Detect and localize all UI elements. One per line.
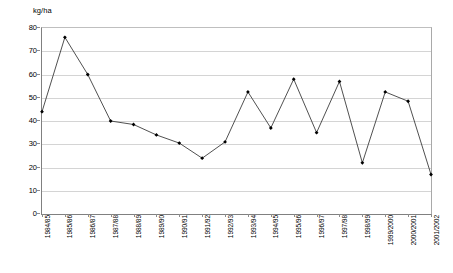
y-axis-tick-label: 40 — [7, 116, 37, 125]
x-axis-tick-labels: 1984/851985/861986/871987/881988/891989/… — [41, 215, 430, 273]
data-point-marker — [155, 133, 159, 137]
y-axis-tick-mark — [37, 97, 40, 98]
series-line — [42, 37, 431, 174]
data-point-marker — [109, 119, 113, 123]
y-axis-unit-label: kg/ha — [33, 6, 52, 15]
x-axis-tick-label: 1997/98 — [341, 215, 348, 238]
y-axis-tick-mark — [37, 167, 40, 168]
y-axis-tick-label: 50 — [7, 92, 37, 101]
y-axis-tick-labels: 80706050403020100 — [0, 27, 37, 213]
y-axis-tick-label: 20 — [7, 162, 37, 171]
data-point-marker — [40, 110, 44, 114]
data-point-marker — [315, 131, 319, 135]
y-axis-tick-label: 80 — [7, 23, 37, 32]
data-point-marker — [292, 77, 296, 81]
data-point-marker — [132, 123, 136, 127]
x-axis-tick-label: 1992/93 — [227, 215, 234, 238]
x-axis-tick-label: 1988/89 — [135, 215, 142, 238]
y-axis-tick-mark — [37, 50, 40, 51]
x-axis-tick-label: 1995/96 — [295, 215, 302, 238]
y-axis-tick-label: 0 — [7, 209, 37, 218]
y-axis-tick-mark — [37, 190, 40, 191]
data-point-marker — [360, 161, 364, 165]
data-point-marker — [338, 80, 342, 84]
x-axis-tick-mark — [431, 214, 432, 217]
x-axis-tick-label: 1990/91 — [181, 215, 188, 238]
y-axis-tick-mark — [37, 143, 40, 144]
x-axis-tick-label: 1998/99 — [364, 215, 371, 238]
x-axis-tick-label: 1987/88 — [112, 215, 119, 238]
y-axis-tick-mark — [37, 120, 40, 121]
y-axis-tick-label: 70 — [7, 46, 37, 55]
x-axis-tick-label: 1991/92 — [204, 215, 211, 238]
x-axis-tick-label: 1993/94 — [250, 215, 257, 238]
x-axis-tick-label: 1989/90 — [158, 215, 165, 238]
x-axis-tick-label: 2001/2002 — [433, 215, 440, 245]
y-axis-tick-label: 60 — [7, 69, 37, 78]
data-point-marker — [383, 90, 387, 94]
x-axis-tick-label: 1986/87 — [89, 215, 96, 238]
y-axis-tick-mark — [37, 27, 40, 28]
plot-area — [41, 27, 432, 215]
y-axis-tick-mark — [37, 213, 40, 214]
data-point-marker — [406, 99, 410, 103]
x-axis-tick-label: 1996/97 — [318, 215, 325, 238]
x-axis-tick-label: 1994/95 — [272, 215, 279, 238]
y-axis-tick-label: 10 — [7, 185, 37, 194]
line-chart: kg/ha 80706050403020100 1984/851985/8619… — [0, 0, 453, 273]
y-axis-tick-label: 30 — [7, 139, 37, 148]
x-axis-tick-label: 1999/2000 — [387, 215, 394, 245]
data-series — [42, 28, 431, 214]
x-axis-tick-label: 2000/2001 — [410, 215, 417, 245]
x-axis-tick-label: 1985/86 — [66, 215, 73, 238]
y-axis-tick-mark — [37, 74, 40, 75]
x-axis-tick-label: 1984/85 — [44, 215, 51, 238]
data-point-marker — [429, 173, 433, 177]
